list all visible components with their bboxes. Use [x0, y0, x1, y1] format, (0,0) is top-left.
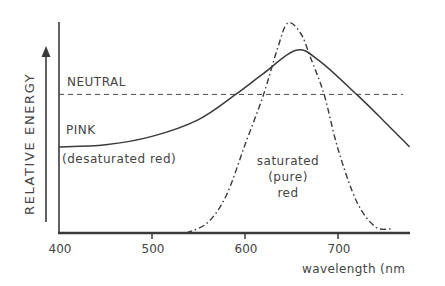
- neutral-label: NEUTRAL: [67, 76, 126, 88]
- x-axis-label: wavelength (nm: [302, 262, 405, 276]
- saturated-label-line2: (pure): [268, 171, 308, 183]
- pink-curve: [59, 50, 410, 147]
- saturated-label-line1: saturated: [257, 155, 319, 167]
- x-tick-label-500: 500: [142, 242, 165, 256]
- arrow-head-icon: [42, 46, 51, 57]
- x-tick-label-700: 700: [328, 242, 351, 256]
- y-axis-label: RELATIVE ENERGY: [22, 73, 37, 215]
- pink-sublabel: (desaturated red): [62, 153, 176, 165]
- saturated-label-line3: red: [277, 187, 298, 199]
- x-tick-label-600: 600: [235, 242, 258, 256]
- pink-label: PINK: [66, 124, 96, 136]
- x-tick-label-400: 400: [49, 242, 72, 256]
